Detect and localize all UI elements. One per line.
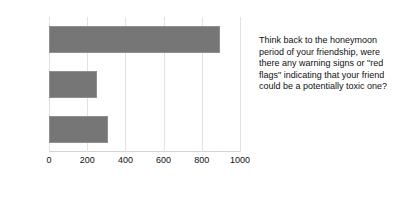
gridline — [240, 17, 241, 152]
x-tick-label: 0 — [46, 155, 51, 165]
x-tick-label: 400 — [118, 155, 133, 165]
question-text: Think back to the honeymoon period of yo… — [259, 35, 399, 93]
x-tick-label: 600 — [156, 155, 171, 165]
x-tick-label: 200 — [80, 155, 95, 165]
x-axis-line — [49, 151, 240, 152]
bar — [49, 116, 108, 143]
bar — [49, 26, 220, 53]
bar-chart: 02004006008001000 YesNoNot Sure — [0, 0, 258, 197]
chart-page: 02004006008001000 YesNoNot Sure Think ba… — [0, 0, 402, 197]
plot-area — [49, 17, 240, 152]
x-tick-label: 1000 — [230, 155, 250, 165]
x-tick-label: 800 — [194, 155, 209, 165]
bar — [49, 71, 97, 98]
